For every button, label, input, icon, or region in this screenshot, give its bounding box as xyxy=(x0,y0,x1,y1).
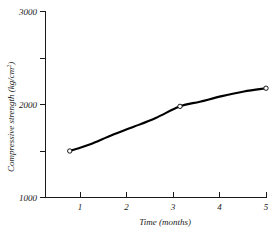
axis-frame xyxy=(46,12,267,198)
y-axis-ticks xyxy=(40,12,46,198)
x-axis-tick-labels: 1 2 3 4 5 xyxy=(78,202,269,212)
x-tick-label-4: 4 xyxy=(217,202,222,212)
x-tick-label-5: 5 xyxy=(264,202,269,212)
x-tick-label-2: 2 xyxy=(124,202,129,212)
x-tick-label-1: 1 xyxy=(78,202,83,212)
x-axis-title: Time (months) xyxy=(139,217,191,227)
axis-spines xyxy=(46,12,267,198)
y-axis-title-tail: ) xyxy=(6,62,16,66)
data-point-marker xyxy=(264,86,268,90)
y-axis-title: Compressive strength (kg/cm2) xyxy=(6,62,16,172)
x-tick-label-3: 3 xyxy=(170,202,176,212)
chart-figure: 3000 2000 1000 1 2 3 4 5 Time (months) C… xyxy=(0,0,277,232)
data-series-group xyxy=(68,86,269,153)
compressive-strength-line-chart: 3000 2000 1000 1 2 3 4 5 Time (months) C… xyxy=(0,0,277,232)
y-axis-title-main: Compressive strength (kg/cm xyxy=(6,67,16,172)
y-axis-tick-labels: 3000 2000 1000 xyxy=(18,7,38,203)
y-tick-label-1000: 1000 xyxy=(19,193,38,203)
y-tick-label-3000: 3000 xyxy=(18,7,38,17)
svg-text:Compressive strength (kg/cm2): Compressive strength (kg/cm2) xyxy=(6,62,16,172)
data-point-marker xyxy=(68,149,72,153)
data-markers-group xyxy=(68,86,269,153)
y-tick-label-2000: 2000 xyxy=(19,100,38,110)
data-point-marker xyxy=(178,104,182,108)
data-curve-compressive-strength xyxy=(70,88,266,151)
x-axis-ticks xyxy=(80,192,266,198)
